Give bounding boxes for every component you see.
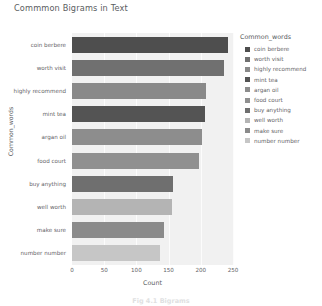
chart-figure: Commmon Bigrams in Text coin berberewort… <box>0 0 322 306</box>
chart-title: Commmon Bigrams in Text <box>14 3 128 13</box>
legend-item[interactable]: worth visit <box>240 54 320 64</box>
figure-caption: Fig 4.1 Bigrams <box>0 297 322 306</box>
bar-slot <box>72 149 233 172</box>
legend-swatch-icon <box>245 67 250 72</box>
bar[interactable] <box>72 222 164 238</box>
legend-item[interactable]: highly recommend <box>240 64 320 74</box>
legend-label: highly recommend <box>254 66 306 72</box>
legend-swatch-icon <box>245 98 250 103</box>
bar-slot <box>72 79 233 102</box>
x-axis-tick-labels: 050100150200250 <box>0 267 322 277</box>
legend-label: number number <box>254 138 299 144</box>
x-axis-title: Count <box>72 279 233 287</box>
x-tick-label: 200 <box>195 267 206 273</box>
bar[interactable] <box>72 176 173 192</box>
bar-slot <box>72 242 233 265</box>
legend-swatch-icon <box>245 108 250 113</box>
x-tick-label: 50 <box>101 267 108 273</box>
legend-label: coin berbere <box>254 46 289 52</box>
y-tick-label: coin berbere <box>31 33 66 56</box>
legend-label: well worth <box>254 117 283 123</box>
legend-item[interactable]: buy anything <box>240 105 320 115</box>
y-tick-label: make sure <box>37 219 66 242</box>
bar[interactable] <box>72 106 205 122</box>
bar-slot <box>72 126 233 149</box>
legend-swatch-icon <box>245 47 250 52</box>
y-axis-title: Common_words <box>7 102 14 162</box>
bar-slot <box>72 219 233 242</box>
y-tick-label: number number <box>21 242 66 265</box>
legend-title: Common_words <box>240 33 320 41</box>
y-tick-label: food court <box>37 149 66 172</box>
legend-item[interactable]: mint tea <box>240 75 320 85</box>
bar[interactable] <box>72 153 199 169</box>
legend-item[interactable]: coin berbere <box>240 44 320 54</box>
legend-items: coin berbereworth visithighly recommendm… <box>240 44 320 146</box>
y-tick-label: mint tea <box>42 103 66 126</box>
bar-slot <box>72 172 233 195</box>
legend-label: buy anything <box>254 107 291 113</box>
bars-group <box>72 33 233 265</box>
bar[interactable] <box>72 129 202 145</box>
legend-item[interactable]: well worth <box>240 115 320 125</box>
legend-swatch-icon <box>245 118 250 123</box>
legend-swatch-icon <box>245 77 250 82</box>
legend-label: argan oil <box>254 87 278 93</box>
legend-label: worth visit <box>254 56 283 62</box>
legend-swatch-icon <box>245 128 250 133</box>
y-tick-label: highly recommend <box>14 79 66 102</box>
bar[interactable] <box>72 199 172 215</box>
legend-swatch-icon <box>245 87 250 92</box>
bar-slot <box>72 33 233 56</box>
y-tick-label: worth visit <box>37 56 66 79</box>
legend-item[interactable]: food court <box>240 95 320 105</box>
legend-item[interactable]: argan oil <box>240 85 320 95</box>
y-tick-label: argan oil <box>42 126 66 149</box>
legend-swatch-icon <box>245 57 250 62</box>
legend-item[interactable]: make sure <box>240 126 320 136</box>
bar[interactable] <box>72 60 224 76</box>
bar-slot <box>72 56 233 79</box>
plot-area <box>72 33 233 265</box>
y-tick-label: buy anything <box>29 172 66 195</box>
legend-label: food court <box>254 97 283 103</box>
bar-slot <box>72 195 233 218</box>
bar[interactable] <box>72 83 206 99</box>
bar[interactable] <box>72 37 228 53</box>
legend-label: make sure <box>254 128 283 134</box>
x-tick-label: 150 <box>163 267 174 273</box>
x-tick-label: 250 <box>228 267 239 273</box>
legend: Common_words coin berbereworth visithigh… <box>240 33 320 146</box>
x-tick-label: 0 <box>70 267 74 273</box>
bar-slot <box>72 103 233 126</box>
legend-item[interactable]: number number <box>240 136 320 146</box>
x-tick-label: 100 <box>131 267 142 273</box>
bar[interactable] <box>72 245 160 261</box>
y-tick-label: well worth <box>37 195 66 218</box>
legend-swatch-icon <box>245 138 250 143</box>
legend-label: mint tea <box>254 77 278 83</box>
gridline <box>233 33 234 265</box>
